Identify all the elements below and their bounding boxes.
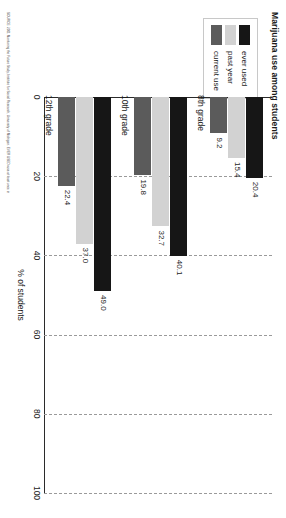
bar-value-label: 49.0: [99, 295, 108, 311]
bar-row: 32.7: [153, 97, 170, 493]
plot-area: 20.415.49.28th grade40.132.719.810th gra…: [44, 97, 272, 493]
bar: [247, 97, 264, 178]
bar: [135, 97, 152, 175]
bar-row: 37.0: [77, 97, 94, 493]
bar-value-label: 40.1: [175, 260, 184, 276]
bar-row: 40.1: [171, 97, 188, 493]
legend-label-past-year: past year: [226, 51, 235, 84]
axis-tick-label: 80: [32, 409, 42, 418]
bar-row: 15.4: [229, 97, 246, 493]
chart-legend: ever used past year current use: [203, 18, 258, 99]
bar-row: 9.2: [211, 97, 228, 493]
category-label: 8th grade: [197, 95, 207, 131]
bar: [77, 97, 94, 244]
bar-value-label: 37.0: [81, 248, 90, 264]
chart-figure: Marijuana use among students ever used p…: [0, 0, 286, 518]
category-label: 10th grade: [121, 95, 131, 136]
bar-row: 20.4: [247, 97, 264, 493]
legend-item-current-use: current use: [210, 25, 223, 91]
bar: [95, 97, 112, 291]
legend-swatch-past-year: [225, 25, 236, 45]
bar-value-label: 22.4: [63, 190, 72, 206]
axis-tick-label: 40: [32, 251, 42, 260]
legend-item-ever-used: ever used: [238, 25, 251, 91]
gridline: [44, 493, 272, 494]
value-axis-ticks: 020406080100: [26, 97, 42, 493]
bar-group: 40.132.719.810th grade: [120, 97, 196, 493]
bar-group: 20.415.49.28th grade: [196, 97, 272, 493]
legend-label-ever-used: ever used: [240, 51, 249, 86]
bar: [211, 97, 228, 133]
bar-row: 49.0: [95, 97, 112, 493]
bar: [153, 97, 170, 226]
legend-item-past-year: past year: [224, 25, 237, 91]
bar-group: 49.037.022.412th grade: [44, 97, 120, 493]
bar-row: 22.4: [59, 97, 76, 493]
bar-value-label: 9.2: [215, 137, 224, 148]
legend-label-current-use: current use: [212, 51, 221, 91]
source-note: SOURCE: 2001 Monitoring the Future Study…: [6, 12, 10, 193]
bar-row: 19.8: [135, 97, 152, 493]
bar-value-label: 20.4: [251, 182, 260, 198]
bar: [229, 97, 246, 158]
axis-tick-label: 0: [32, 95, 42, 100]
axis-tick-label: 20: [32, 171, 42, 180]
bar-value-label: 32.7: [157, 230, 166, 246]
legend-swatch-current-use: [211, 25, 222, 45]
bar: [171, 97, 188, 256]
bar: [59, 97, 76, 186]
category-label: 12th grade: [45, 95, 55, 136]
legend-swatch-ever-used: [239, 25, 250, 45]
axis-tick-label: 60: [32, 330, 42, 339]
axis-tick-label: 100: [32, 486, 42, 500]
bar-value-label: 19.8: [139, 179, 148, 195]
bar-value-label: 15.4: [233, 162, 242, 178]
value-axis-label: % of students: [16, 97, 26, 493]
